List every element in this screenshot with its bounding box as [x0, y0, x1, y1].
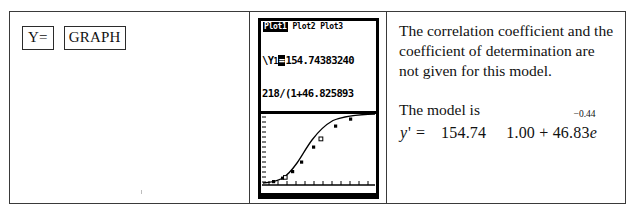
y-equals-key[interactable]: Y= [22, 26, 54, 50]
calculator-key-row: Y= GRAPH [22, 26, 126, 50]
formula-exponent: −0.44 [574, 109, 596, 119]
logistic-curve-plot [261, 114, 376, 193]
data-point-markers [272, 118, 352, 184]
formula-fraction: 154.74 1.00 + 46.83e−0.44 [431, 124, 603, 142]
explanation-text: The correlation coefficient and the coef… [399, 21, 615, 120]
plot-tab-2[interactable]: Plot2 [293, 22, 316, 32]
formula-e-base: e [590, 124, 597, 141]
function-y1-body-1: 154.74383240 [285, 55, 354, 66]
graph-key[interactable]: GRAPH [64, 26, 126, 50]
formula-prime: ' [407, 124, 413, 141]
formula-numerator: 154.74 [431, 124, 496, 142]
scan-artifact [141, 190, 142, 194]
function-y1-name: \Y [262, 55, 273, 66]
plot-tab-3[interactable]: Plot3 [320, 22, 343, 32]
figure-table: Y= GRAPH Plot1 Plot2 Plot3 \Y1=154.74383… [9, 11, 626, 204]
model-formula: y' = 154.74 1.00 + 46.83e−0.44 [400, 124, 603, 142]
function-y1-line-1[interactable]: \Y1=154.74383240 [262, 55, 376, 66]
function-editor-screen: Plot1 Plot2 Plot3 \Y1=154.74383240 218/(… [261, 21, 376, 114]
plot-tab-1[interactable]: Plot1 [263, 22, 288, 32]
figure-page: Y= GRAPH Plot1 Plot2 Plot3 \Y1=154.74383… [0, 0, 639, 219]
calculator-keys-cell: Y= GRAPH [10, 12, 250, 203]
function-y1-line-2: 218/(1+46.825893 [262, 88, 376, 99]
plot-tab-bar: Plot1 Plot2 Plot3 [261, 21, 376, 32]
y-axis-ticks [262, 117, 266, 182]
calculator-screenshot: Plot1 Plot2 Plot3 \Y1=154.74383240 218/(… [258, 18, 379, 199]
formula-denominator: 1.00 + 46.83e−0.44 [500, 121, 603, 141]
formula-left-side: y' [400, 124, 416, 142]
function-list: \Y1=154.74383240 218/(1+46.825893 624368… [261, 32, 376, 114]
formula-denominator-text: 1.00 + 46.83 [506, 124, 589, 141]
explanation-paragraph-1: The correlation coefficient and the coef… [399, 21, 615, 81]
explanation-cell: The correlation coefficient and the coef… [387, 12, 625, 203]
logistic-curve [263, 114, 375, 183]
calculator-screen-cell: Plot1 Plot2 Plot3 \Y1=154.74383240 218/(… [250, 12, 387, 203]
logistic-graph-screen [261, 114, 376, 193]
formula-equals-sign: = [416, 124, 431, 142]
